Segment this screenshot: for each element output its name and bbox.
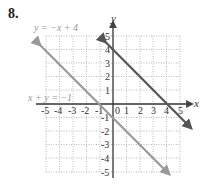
svg-text:-5: -5 bbox=[101, 167, 109, 178]
svg-text:-3: -3 bbox=[101, 139, 109, 150]
coordinate-plane: x y -5 -4 -3 -2 -1 0 1 2 3 4 5 5 4 3 2 1… bbox=[0, 0, 206, 188]
svg-text:-2: -2 bbox=[81, 105, 89, 116]
svg-text:-4: -4 bbox=[101, 153, 109, 164]
svg-text:3: 3 bbox=[105, 58, 110, 69]
svg-text:-5: -5 bbox=[41, 105, 49, 116]
equation-label-1: y = −x + 4 bbox=[33, 22, 78, 33]
svg-text:2: 2 bbox=[105, 71, 110, 82]
svg-text:0: 0 bbox=[115, 105, 120, 116]
svg-text:-2: -2 bbox=[101, 126, 109, 137]
svg-text:3: 3 bbox=[151, 105, 156, 116]
svg-text:1: 1 bbox=[124, 105, 129, 116]
svg-text:-3: -3 bbox=[68, 105, 76, 116]
svg-text:-4: -4 bbox=[54, 105, 62, 116]
x-axis-label: x bbox=[193, 97, 199, 109]
equation-label-2: x + y = −1 bbox=[27, 92, 72, 103]
y-axis-label: y bbox=[110, 12, 116, 24]
svg-text:2: 2 bbox=[138, 105, 143, 116]
x-tick-labels: -5 -4 -3 -2 -1 0 1 2 3 4 5 bbox=[41, 105, 183, 116]
svg-text:1: 1 bbox=[105, 85, 110, 96]
svg-text:5: 5 bbox=[105, 31, 110, 42]
